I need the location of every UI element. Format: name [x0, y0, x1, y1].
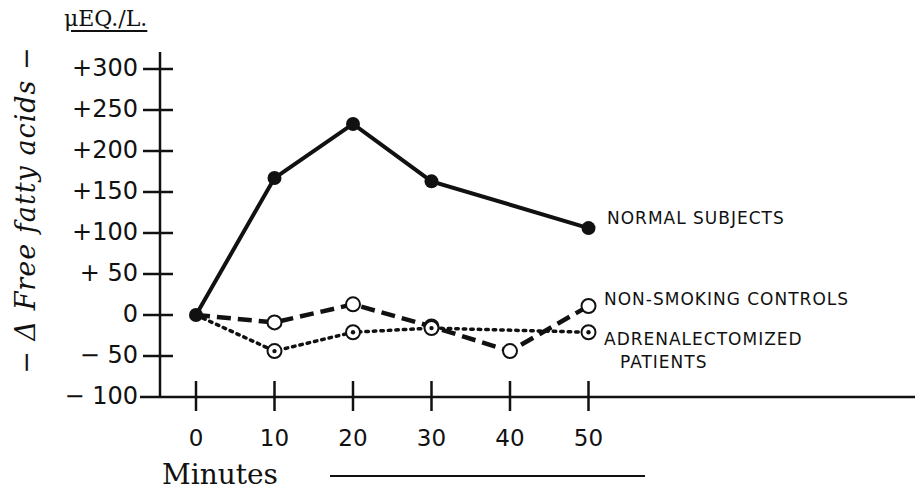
series-line	[196, 315, 589, 351]
data-point	[346, 117, 360, 131]
legend-patients: PATIENTS	[620, 352, 708, 372]
series-line	[196, 124, 589, 315]
x-axis-label: Minutes	[162, 458, 278, 491]
data-point	[425, 174, 439, 188]
series-line	[196, 304, 589, 351]
data-point	[346, 297, 360, 311]
plot-area	[0, 0, 920, 498]
legend-normal-subjects: NORMAL SUBJECTS	[607, 208, 785, 228]
data-point	[582, 299, 596, 313]
data-point	[189, 308, 203, 322]
data-point	[582, 221, 596, 235]
data-point	[503, 344, 517, 358]
legend-adrenalectomized: ADRENALECTOMIZED	[604, 329, 803, 349]
legend-non-smoking-controls: NON-SMOKING CONTROLS	[604, 289, 849, 309]
data-point	[268, 315, 282, 329]
data-point	[268, 171, 282, 185]
